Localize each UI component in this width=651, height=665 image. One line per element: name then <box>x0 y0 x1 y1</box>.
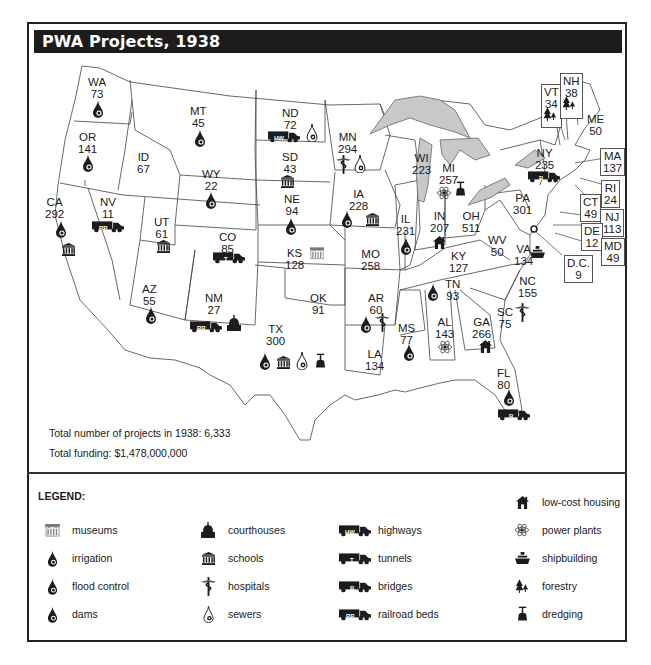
lake-huron <box>440 138 490 165</box>
flood-control-icon <box>503 388 515 406</box>
irrigation-icon <box>205 191 217 209</box>
hospitals-icon <box>336 155 351 174</box>
legend-item-dredging: dredging <box>508 605 583 623</box>
state-sd: SD43 <box>282 151 298 175</box>
low-cost-housing-icon <box>433 236 446 249</box>
bridges-icon: B <box>498 408 530 421</box>
legend-item-schools: schools <box>194 549 264 567</box>
dams-icon <box>82 154 94 172</box>
forestry-icon <box>544 107 556 121</box>
svg-text:B: B <box>350 585 355 591</box>
legend-item-irrigation: irrigation <box>38 549 112 567</box>
railroad-beds-icon: RR <box>339 608 371 621</box>
svg-text:HW: HW <box>345 529 355 535</box>
state-vt: VT34 <box>541 84 562 128</box>
dams-icon <box>145 306 157 324</box>
hospitals-icon <box>515 303 530 322</box>
museums-icon <box>45 524 60 537</box>
state-wi: WI223 <box>412 152 431 176</box>
schools-icon <box>157 240 170 253</box>
state-oh: OH511 <box>462 210 480 234</box>
power-plants-icon <box>437 186 451 200</box>
svg-text:RR: RR <box>197 325 206 331</box>
state-ca: CA292 <box>45 196 64 220</box>
legend-item-courthouses: courthouses <box>194 521 285 539</box>
state-nj: NJ113 <box>600 209 624 237</box>
state-mn: MN294 <box>338 131 357 155</box>
legend-item-low-cost-housing: low-cost housing <box>508 493 620 511</box>
svg-text:T: T <box>224 256 228 262</box>
state-ut: UT61 <box>154 216 169 240</box>
state-md: MD49 <box>601 238 625 266</box>
legend-item-sewers: sewers <box>194 605 261 623</box>
state-tx: TX300 <box>266 323 285 347</box>
legend-item-tunnels: Ttunnels <box>338 549 412 567</box>
irrigation-icon <box>47 550 58 567</box>
legend-title: LEGEND: <box>38 490 85 502</box>
state-sc: SC75 <box>497 306 513 330</box>
legend-item-dams: dams <box>38 605 98 623</box>
bridges-icon: B <box>339 580 371 593</box>
state-al: AL143 <box>435 316 454 340</box>
legend-divider <box>27 472 627 474</box>
state-il: IL231 <box>396 213 415 237</box>
railroad-beds-icon: RR <box>190 320 222 333</box>
state-me: ME50 <box>587 113 604 137</box>
svg-text:RR: RR <box>346 613 355 619</box>
flood-control-icon <box>427 283 439 301</box>
state-la: LA134 <box>365 348 384 372</box>
power-plants-icon <box>438 340 452 354</box>
flood-control-icon <box>403 343 415 361</box>
legend-item-highways: HWhighways <box>338 521 422 539</box>
flood-control-icon <box>47 578 58 595</box>
total-projects: Total number of projects in 1938: 6,333 <box>49 427 231 439</box>
state-tn: TN93 <box>445 278 460 302</box>
forestry-icon <box>563 96 575 110</box>
schools-icon <box>202 552 215 565</box>
hospitals-icon <box>201 577 216 596</box>
state-ct: CT49 <box>580 194 601 222</box>
dc-marker <box>531 226 537 232</box>
state-id: ID67 <box>137 151 150 175</box>
sewers-icon <box>354 155 366 173</box>
legend-item-shipbuilding: shipbuilding <box>508 549 597 567</box>
state-wv: WV50 <box>488 234 507 258</box>
state-nv: NV11 <box>100 196 116 220</box>
state-ne: NE94 <box>284 193 300 217</box>
schools-icon <box>366 213 379 226</box>
state-ma: MA137 <box>600 148 625 176</box>
dredging-icon <box>455 181 466 197</box>
state-ks: KS128 <box>285 247 304 271</box>
legend-item-flood-control: flood control <box>38 577 129 595</box>
state-dc: D.C.9 <box>564 255 593 283</box>
sewers-icon <box>203 606 214 623</box>
svg-text:HW: HW <box>274 135 284 141</box>
bridges-icon: B <box>528 170 560 183</box>
state-ia: IA228 <box>349 188 368 212</box>
svg-text:T: T <box>350 557 354 563</box>
forestry-icon <box>516 579 528 593</box>
dredging-icon <box>315 353 326 369</box>
highways-icon: HW <box>268 130 300 143</box>
state-nc: NC155 <box>518 275 537 299</box>
state-ga: GA266 <box>472 316 491 340</box>
flood-control-icon <box>360 315 372 333</box>
total-funding: Total funding: $1,478,000,000 <box>49 447 187 459</box>
dredging-icon <box>517 606 528 622</box>
dams-icon <box>47 606 58 623</box>
svg-text:B: B <box>539 175 544 181</box>
power-plants-icon <box>515 523 529 537</box>
dams-icon <box>194 129 206 147</box>
sewers-icon <box>296 352 308 370</box>
legend-item-power-plants: power plants <box>508 521 602 539</box>
state-wa: WA73 <box>88 76 106 100</box>
dams-icon <box>92 100 104 118</box>
state-nm: NM27 <box>205 292 223 316</box>
railroad-beds-icon: RR <box>92 220 124 233</box>
sewers-icon <box>306 124 318 142</box>
tunnels-icon: T <box>213 251 245 264</box>
flood-control-icon <box>400 237 412 255</box>
flood-control-icon <box>341 210 353 228</box>
dams-icon <box>285 217 297 235</box>
schools-icon <box>281 175 294 188</box>
